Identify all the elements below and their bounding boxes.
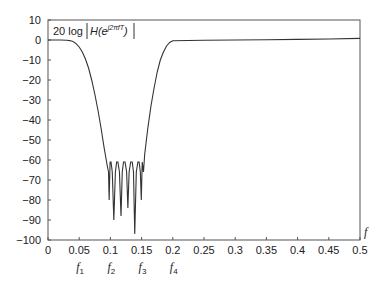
y-tick-label: 0 bbox=[35, 34, 41, 46]
magnitude-annotation: 20 logH(ej2πfT) bbox=[53, 23, 134, 39]
x-tick-label: 0.15 bbox=[131, 244, 152, 256]
y-tick-label: −20 bbox=[22, 74, 41, 86]
x-tick-label: 0.35 bbox=[256, 244, 277, 256]
y-tick-label: −100 bbox=[16, 234, 41, 246]
plot-frame bbox=[48, 20, 360, 240]
x-tick-label: 0.45 bbox=[318, 244, 339, 256]
y-tick-label: −90 bbox=[22, 214, 41, 226]
magnitude-response-line bbox=[48, 38, 360, 234]
x-tick-label: 0.25 bbox=[193, 244, 214, 256]
x-tick-label: 0.5 bbox=[352, 244, 367, 256]
svg-text:20 log: 20 log bbox=[53, 25, 83, 37]
x-axis-label: f bbox=[364, 225, 369, 239]
band-edge-label: f2 bbox=[107, 260, 115, 276]
y-tick-label: −50 bbox=[22, 134, 41, 146]
band-edge-label: f1 bbox=[76, 260, 84, 276]
x-tick-label: 0.1 bbox=[103, 244, 118, 256]
x-tick-label: 0.3 bbox=[228, 244, 243, 256]
y-tick-label: −80 bbox=[22, 194, 41, 206]
x-tick-label: 0.05 bbox=[68, 244, 89, 256]
y-tick-label: −30 bbox=[22, 94, 41, 106]
svg-text:H(ej2πfT): H(ej2πfT) bbox=[90, 24, 128, 37]
x-tick-label: 0.4 bbox=[290, 244, 305, 256]
frequency-response-chart: 100−10−20−30−40−50−60−70−80−90−100 00.05… bbox=[0, 0, 387, 286]
x-tick-label: 0 bbox=[45, 244, 51, 256]
y-tick-label: −70 bbox=[22, 174, 41, 186]
band-edge-label: f3 bbox=[139, 260, 147, 276]
y-tick-label: 10 bbox=[29, 14, 41, 26]
y-axis: 100−10−20−30−40−50−60−70−80−90−100 bbox=[16, 14, 51, 246]
y-tick-label: −10 bbox=[22, 54, 41, 66]
band-edge-labels: f1f2f3f4 bbox=[76, 260, 178, 276]
band-edge-label: f4 bbox=[170, 260, 178, 276]
x-tick-label: 0.2 bbox=[165, 244, 180, 256]
y-tick-label: −60 bbox=[22, 154, 41, 166]
y-tick-label: −40 bbox=[22, 114, 41, 126]
